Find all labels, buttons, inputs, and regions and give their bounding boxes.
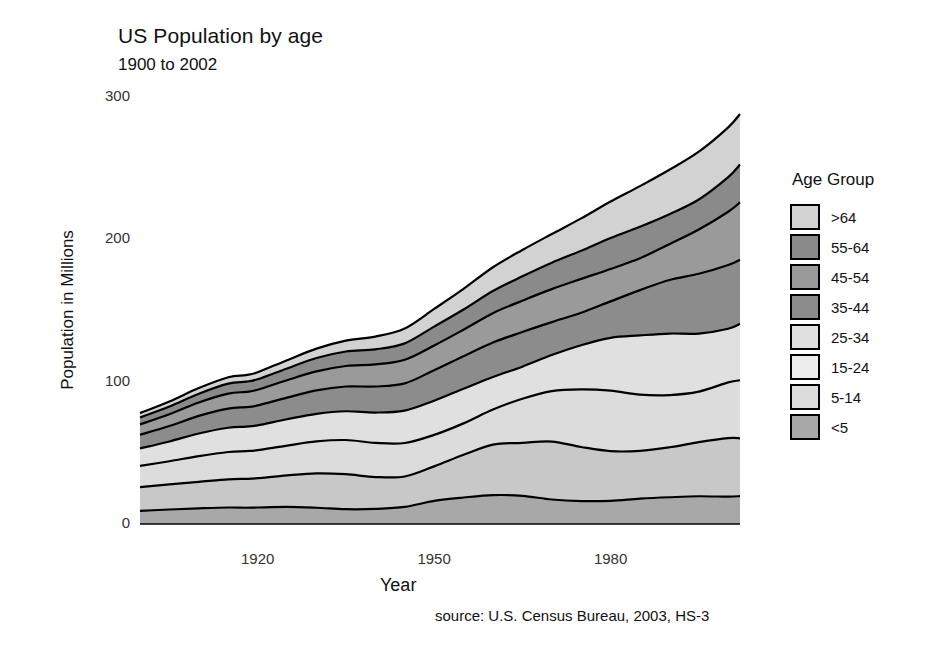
legend-item-label: 35-44 (831, 299, 869, 316)
legend-item-label: <5 (831, 419, 848, 436)
legend-item-label: >64 (831, 209, 856, 226)
legend-title: Age Group (792, 170, 930, 190)
legend-swatch (790, 234, 820, 260)
legend-swatch (790, 324, 820, 350)
legend-item[interactable]: 5-14 (790, 382, 930, 412)
legend-item-label: 25-34 (831, 329, 869, 346)
legend-item[interactable]: >64 (790, 202, 930, 232)
legend-swatch (790, 264, 820, 290)
legend-item-label: 45-54 (831, 269, 869, 286)
legend-swatch (790, 384, 820, 410)
legend-swatch (790, 414, 820, 440)
legend-item[interactable]: 45-54 (790, 262, 930, 292)
legend-item-label: 5-14 (831, 389, 861, 406)
legend: Age Group >6455-6445-5435-4425-3415-245-… (790, 170, 930, 442)
legend-item-label: 55-64 (831, 239, 869, 256)
legend-item[interactable]: <5 (790, 412, 930, 442)
legend-item-label: 15-24 (831, 359, 869, 376)
legend-item[interactable]: 15-24 (790, 352, 930, 382)
legend-item[interactable]: 35-44 (790, 292, 930, 322)
legend-swatch (790, 354, 820, 380)
chart-page: US Population by age 1900 to 2002 Popula… (0, 0, 939, 650)
legend-item[interactable]: 25-34 (790, 322, 930, 352)
legend-item[interactable]: 55-64 (790, 232, 930, 262)
legend-swatch (790, 204, 820, 230)
legend-swatch (790, 294, 820, 320)
